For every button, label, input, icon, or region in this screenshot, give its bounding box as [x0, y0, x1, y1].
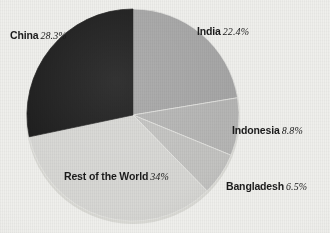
slice-label-rest-of-the-world: Rest of the World34% — [64, 167, 169, 183]
slice-value-india: 22.4% — [223, 26, 249, 37]
slice-label-indonesia: Indonesia8.8% — [232, 121, 303, 137]
slice-name-china: China — [10, 29, 38, 41]
slice-label-india: India22.4% — [197, 22, 249, 38]
slice-label-bangladesh: Bangladesh6.5% — [226, 177, 307, 193]
slice-value-indonesia: 8.8% — [282, 125, 303, 136]
slice-name-india: India — [197, 25, 221, 37]
slice-value-rest-of-the-world: 34% — [150, 171, 169, 182]
slice-name-indonesia: Indonesia — [232, 124, 280, 136]
slice-value-bangladesh: 6.5% — [286, 181, 307, 192]
slice-value-china: 28.3% — [40, 30, 66, 41]
slice-name-bangladesh: Bangladesh — [226, 180, 284, 192]
slice-label-china: China28.3% — [10, 26, 67, 42]
pie-chart-figure: China28.3% India22.4% Indonesia8.8% Bang… — [0, 0, 330, 233]
slice-name-rest-of-the-world: Rest of the World — [64, 170, 148, 182]
